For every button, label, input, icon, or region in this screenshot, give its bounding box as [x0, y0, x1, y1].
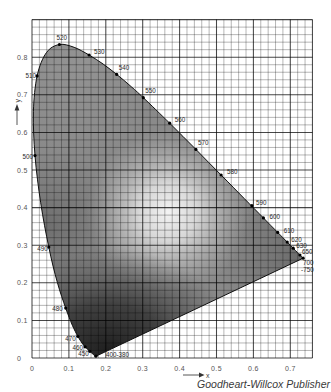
- x-tick-label: 0.5: [211, 365, 222, 372]
- wavelength-marker: [168, 122, 171, 125]
- wavelength-label: 650: [302, 248, 313, 255]
- wavelength-marker: [76, 335, 79, 338]
- wavelength-marker: [250, 204, 253, 207]
- wavelength-label: 560: [175, 116, 186, 123]
- y-tick-label: 0.1: [17, 317, 28, 324]
- wavelength-label: 580: [227, 168, 238, 175]
- wavelength-label: 480: [52, 305, 63, 312]
- wavelength-label: 610: [284, 227, 295, 234]
- y-tick-label: 0: [17, 355, 21, 362]
- y-tick-label: 0.3: [17, 242, 28, 249]
- gamut-shade-bottom: [0, 0, 331, 392]
- x-tick-label: 0.3: [137, 365, 148, 372]
- x-tick-label: 0.1: [64, 365, 75, 372]
- y-tick-label: 0.7: [17, 91, 28, 98]
- credit-text: Goodheart-Willcox Publisher: [197, 378, 330, 390]
- wavelength-marker: [194, 148, 197, 151]
- wavelength-label: 470: [65, 335, 76, 342]
- x-tick-label: 0.7: [285, 365, 296, 372]
- y-tick-label: 0.2: [17, 279, 28, 286]
- y-axis-arrow-icon: [15, 104, 20, 111]
- chromaticity-diagram: 400-380450460470480490500510520530540550…: [0, 0, 331, 392]
- y-axis-label: y: [14, 99, 22, 103]
- x-tick-labels: 00.10.20.30.40.50.60.7: [30, 365, 296, 372]
- wavelength-label: 460: [73, 344, 84, 351]
- wavelength-label: 400-380: [106, 351, 130, 358]
- wavelength-marker: [33, 154, 36, 157]
- wavelength-label: 590: [256, 199, 267, 206]
- wavelength-marker: [286, 241, 289, 244]
- wavelength-marker: [84, 345, 87, 348]
- x-tick-label: 0.4: [174, 365, 185, 372]
- x-tick-label: 0: [30, 365, 34, 372]
- wavelength-marker: [262, 216, 265, 219]
- x-axis-arrow-icon: [199, 373, 205, 378]
- wavelength-marker: [94, 355, 97, 358]
- wavelength-label: 490: [37, 245, 48, 252]
- wavelength-label: 600: [269, 213, 280, 220]
- wavelength-marker: [220, 173, 223, 176]
- wavelength-label: 450: [78, 350, 89, 357]
- wavelength-marker: [64, 307, 67, 310]
- y-tick-label: 0.4: [17, 204, 28, 211]
- wavelength-label: -750: [301, 266, 314, 273]
- x-tick-label: 0.6: [248, 365, 259, 372]
- wavelength-marker: [88, 53, 91, 56]
- y-tick-label: 0.8: [17, 54, 28, 61]
- gamut-fill: [0, 0, 331, 392]
- wavelength-label: 510: [26, 72, 37, 79]
- y-tick-label: 0.5: [17, 167, 28, 174]
- wavelength-marker: [58, 43, 61, 46]
- wavelength-marker: [142, 96, 145, 99]
- y-axis-indicator: y: [14, 99, 22, 126]
- wavelength-label: 530: [94, 48, 105, 55]
- wavelength-label: 570: [198, 139, 209, 146]
- x-tick-label: 0.2: [100, 365, 111, 372]
- wavelength-label: 520: [56, 34, 67, 41]
- wavelength-marker: [276, 231, 279, 234]
- wavelength-marker: [115, 73, 118, 76]
- wavelength-marker: [292, 247, 295, 250]
- wavelength-label: 550: [145, 87, 156, 94]
- wavelength-label: 500: [22, 153, 33, 160]
- y-tick-label: 0.6: [17, 129, 28, 136]
- wavelength-label: 540: [119, 64, 130, 71]
